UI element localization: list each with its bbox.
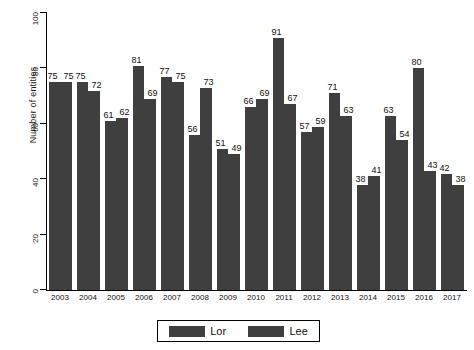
x-axis-tick-label-2011: 2011: [270, 293, 298, 302]
bar-group: 7163: [329, 13, 352, 290]
bar-lor-2008: 56: [189, 135, 201, 290]
bar-group: 8043: [413, 13, 436, 290]
bar-value-label: 51: [216, 139, 226, 148]
y-axis-tick-label: 80: [32, 67, 40, 76]
y-axis-tick: 40: [40, 178, 46, 179]
bar-value-label: 69: [147, 89, 157, 98]
bar-value-label: 63: [343, 106, 353, 115]
bar-value-label: 42: [440, 164, 450, 173]
x-axis-tick-label-2012: 2012: [298, 293, 326, 302]
bar-value-label: 41: [371, 166, 381, 175]
x-axis-tick-label-2009: 2009: [214, 293, 242, 302]
legend-swatch-icon: [248, 326, 284, 337]
x-axis-tick-label-2008: 2008: [186, 293, 214, 302]
bar-value-label: 66: [244, 97, 254, 106]
bar-group: 7775: [161, 13, 184, 290]
bar-lor-2014: 38: [357, 185, 369, 290]
bar-value-label: 91: [272, 28, 282, 37]
bar-value-label: 38: [356, 175, 366, 184]
bar-lor-2007: 77: [161, 77, 173, 290]
legend-label: Lee: [289, 326, 307, 337]
bar-lee-2016: 43: [424, 171, 436, 290]
bar-lee-2003: 75: [60, 82, 72, 290]
chart-legend: LorLee: [157, 320, 320, 342]
x-axis-tick-label-2016: 2016: [410, 293, 438, 302]
y-axis-tick-label: 20: [32, 234, 40, 243]
bar-value-label: 69: [259, 89, 269, 98]
x-axis-tick-label-2014: 2014: [354, 293, 382, 302]
x-axis-tick-label-2006: 2006: [130, 293, 158, 302]
bar-value-label: 77: [160, 67, 170, 76]
bar-group: 6162: [105, 13, 128, 290]
bar-group: 5759: [301, 13, 324, 290]
bar-value-label: 54: [399, 130, 409, 139]
bar-lor-2012: 57: [301, 132, 313, 290]
bar-lee-2012: 59: [312, 127, 324, 290]
bar-lee-2008: 73: [200, 88, 212, 290]
bar-lor-2015: 63: [385, 116, 397, 291]
bar-group: 7575: [49, 13, 72, 290]
bar-lor-2005: 61: [105, 121, 117, 290]
bar-value-label: 49: [231, 144, 241, 153]
bar-lor-2006: 81: [133, 66, 145, 290]
bar-value-label: 56: [188, 125, 198, 134]
bar-group: 6354: [385, 13, 408, 290]
y-axis-tick: 60: [40, 123, 46, 124]
y-axis-tick-label: 60: [32, 123, 40, 132]
bar-value-label: 75: [63, 72, 73, 81]
bar-value-label: 75: [76, 72, 86, 81]
bar-value-label: 63: [384, 106, 394, 115]
bar-value-label: 43: [427, 161, 437, 170]
x-axis-tick-label-2010: 2010: [242, 293, 270, 302]
bar-value-label: 81: [132, 56, 142, 65]
bar-group: 7572: [77, 13, 100, 290]
bar-lee-2011: 67: [284, 104, 296, 290]
bar-lee-2004: 72: [88, 91, 100, 290]
bar-lee-2017: 38: [452, 185, 464, 290]
y-axis-tick-label: 40: [32, 178, 40, 187]
x-axis-tick-label-2003: 2003: [46, 293, 74, 302]
bar-value-label: 59: [315, 117, 325, 126]
bar-group: 5673: [189, 13, 212, 290]
y-axis-tick: 100: [40, 12, 46, 13]
y-axis-tick-label: 100: [32, 12, 40, 25]
bar-lee-2006: 69: [144, 99, 156, 290]
bar-group: 6669: [245, 13, 268, 290]
bar-lor-2004: 75: [77, 82, 89, 290]
x-axis-tick-label-2015: 2015: [382, 293, 410, 302]
bar-lee-2015: 54: [396, 140, 408, 290]
bar-value-label: 67: [287, 94, 297, 103]
bar-value-label: 75: [48, 72, 58, 81]
bar-lor-2016: 80: [413, 68, 425, 290]
y-axis-tick-label: 0: [32, 289, 40, 293]
bar-value-label: 38: [455, 175, 465, 184]
y-axis-tick: 20: [40, 234, 46, 235]
bar-chart: Number of entities 020406080100757575726…: [0, 0, 474, 350]
legend-entry-lee[interactable]: Lee: [248, 326, 307, 337]
bar-value-label: 73: [203, 78, 213, 87]
y-axis-tick: 80: [40, 67, 46, 68]
x-axis-tick-label-2007: 2007: [158, 293, 186, 302]
bar-group: 9167: [273, 13, 296, 290]
bar-value-label: 71: [328, 83, 338, 92]
legend-entry-lor[interactable]: Lor: [169, 326, 226, 337]
bar-lee-2014: 41: [368, 176, 380, 290]
x-axis-tick-label-2005: 2005: [102, 293, 130, 302]
y-axis-title: Number of entities: [28, 20, 38, 190]
bar-lor-2010: 66: [245, 107, 257, 290]
legend-label: Lor: [210, 326, 226, 337]
plot-area: 0204060801007575757261628169777556735149…: [46, 13, 466, 290]
bar-lor-2009: 51: [217, 149, 229, 290]
bar-lor-2017: 42: [441, 174, 453, 290]
bar-value-label: 61: [104, 111, 114, 120]
bar-lee-2010: 69: [256, 99, 268, 290]
bar-lee-2007: 75: [172, 82, 184, 290]
bar-lee-2013: 63: [340, 116, 352, 291]
bar-lor-2013: 71: [329, 93, 341, 290]
bar-lee-2009: 49: [228, 154, 240, 290]
bar-group: 3841: [357, 13, 380, 290]
bar-lor-2003: 75: [49, 82, 61, 290]
bar-value-label: 72: [91, 81, 101, 90]
x-axis-tick-label-2017: 2017: [438, 293, 466, 302]
x-axis-tick-label-2004: 2004: [74, 293, 102, 302]
